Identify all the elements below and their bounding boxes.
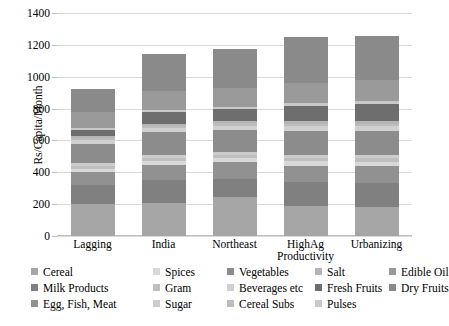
- bar-segment-sugar[interactable]: [355, 155, 399, 158]
- bar-segment-salt[interactable]: [142, 124, 186, 126]
- bar-segment-milk-products[interactable]: [71, 185, 115, 204]
- legend-item-milk-products[interactable]: Milk Products: [31, 280, 116, 295]
- legend-item-dry-fruits[interactable]: Dry Fruits: [389, 280, 449, 295]
- bar-segment-pulses[interactable]: [213, 107, 257, 110]
- bar-highag-productivity[interactable]: [284, 37, 328, 236]
- bar-segment-gram[interactable]: [284, 158, 328, 162]
- bar-urbanizing[interactable]: [355, 36, 399, 236]
- legend-item-salt[interactable]: Salt: [315, 264, 382, 279]
- y-tick-label: 1400: [27, 8, 50, 19]
- legend-item-spices[interactable]: Spices: [153, 264, 195, 279]
- legend-item-beverages-etc[interactable]: Beverages etc: [227, 280, 303, 295]
- bar-segment-dry-fruits[interactable]: [355, 36, 399, 80]
- legend-swatch-icon: [153, 284, 160, 291]
- legend-item-gram[interactable]: Gram: [153, 280, 195, 295]
- bar-segment-egg-fish-meat[interactable]: [213, 162, 257, 179]
- bar-segment-cereal[interactable]: [142, 203, 186, 236]
- bar-segment-pulses[interactable]: [142, 110, 186, 113]
- bar-segment-cereal-subs[interactable]: [71, 138, 115, 140]
- bar-segment-spices[interactable]: [355, 162, 399, 166]
- bar-segment-cereal[interactable]: [355, 207, 399, 236]
- bar-segment-cereal-subs[interactable]: [284, 124, 328, 127]
- bar-segment-gram[interactable]: [71, 166, 115, 169]
- bar-segment-egg-fish-meat[interactable]: [355, 166, 399, 183]
- bar-segment-sugar[interactable]: [71, 163, 115, 166]
- bar-segment-cereal[interactable]: [284, 206, 328, 236]
- bar-segment-beverages-etc[interactable]: [142, 128, 186, 132]
- bar-segment-dry-fruits[interactable]: [71, 89, 115, 111]
- bar-segment-salt[interactable]: [284, 121, 328, 123]
- bar-segment-milk-products[interactable]: [142, 180, 186, 203]
- bar-segment-salt[interactable]: [71, 136, 115, 138]
- bar-segment-beverages-etc[interactable]: [355, 126, 399, 131]
- legend-column: SaltFresh FruitsPulses: [315, 264, 382, 312]
- bar-segment-egg-fish-meat[interactable]: [142, 165, 186, 180]
- legend-swatch-icon: [227, 284, 234, 291]
- bar-segment-milk-products[interactable]: [355, 183, 399, 207]
- bar-segment-cereal-subs[interactable]: [142, 126, 186, 129]
- bar-segment-spices[interactable]: [213, 158, 257, 162]
- bar-segment-fresh-fruits[interactable]: [213, 109, 257, 121]
- legend-item-fresh-fruits[interactable]: Fresh Fruits: [315, 280, 382, 295]
- bar-segment-milk-products[interactable]: [213, 179, 257, 197]
- bar-lagging[interactable]: [71, 89, 115, 236]
- bar-segment-salt[interactable]: [355, 121, 399, 123]
- bar-segment-egg-fish-meat[interactable]: [284, 166, 328, 182]
- bar-segment-edible-oil[interactable]: [213, 88, 257, 107]
- bar-segment-spices[interactable]: [284, 161, 328, 166]
- bar-segment-edible-oil[interactable]: [71, 112, 115, 128]
- bar-segment-sugar[interactable]: [213, 152, 257, 155]
- bar-india[interactable]: [142, 58, 186, 236]
- chart-legend: CerealMilk ProductsEgg, Fish, MeatSpices…: [31, 264, 411, 312]
- bar-segment-vegetables[interactable]: [71, 144, 115, 163]
- bar-segment-beverages-etc[interactable]: [213, 126, 257, 130]
- bar-segment-milk-products[interactable]: [284, 182, 328, 206]
- bar-segment-pulses[interactable]: [71, 128, 115, 130]
- legend-item-sugar[interactable]: Sugar: [153, 296, 195, 311]
- bar-segment-vegetables[interactable]: [355, 131, 399, 155]
- bar-segment-edible-oil[interactable]: [142, 91, 186, 110]
- bar-segment-spices[interactable]: [142, 161, 186, 165]
- bar-segment-spices[interactable]: [71, 169, 115, 173]
- bar-segment-fresh-fruits[interactable]: [71, 130, 115, 136]
- bar-segment-sugar[interactable]: [284, 155, 328, 158]
- bar-segment-fresh-fruits[interactable]: [142, 112, 186, 123]
- legend-swatch-icon: [31, 284, 38, 291]
- bar-segment-cereal[interactable]: [213, 197, 257, 236]
- gridline: [57, 236, 412, 237]
- bar-segment-gram[interactable]: [142, 158, 186, 161]
- legend-item-egg-fish-meat[interactable]: Egg, Fish, Meat: [31, 296, 116, 311]
- bar-segment-salt[interactable]: [213, 121, 257, 123]
- bar-segment-vegetables[interactable]: [284, 131, 328, 155]
- bar-segment-gram[interactable]: [355, 158, 399, 162]
- bar-segment-cereal[interactable]: [71, 204, 115, 236]
- bar-segment-beverages-etc[interactable]: [284, 126, 328, 131]
- bar-segment-cereal-subs[interactable]: [213, 123, 257, 126]
- bar-segment-vegetables[interactable]: [213, 130, 257, 152]
- y-tick-label: 600: [33, 135, 50, 146]
- bar-segment-pulses[interactable]: [284, 103, 328, 106]
- legend-item-vegetables[interactable]: Vegetables: [227, 264, 303, 279]
- legend-item-cereal[interactable]: Cereal: [31, 264, 116, 279]
- bar-segment-beverages-etc[interactable]: [71, 140, 115, 144]
- bar-segment-fresh-fruits[interactable]: [355, 104, 399, 122]
- bar-segment-dry-fruits[interactable]: [213, 49, 257, 88]
- bar-segment-fresh-fruits[interactable]: [284, 106, 328, 121]
- bar-segment-edible-oil[interactable]: [284, 83, 328, 104]
- bar-segment-sugar[interactable]: [142, 155, 186, 158]
- bar-segment-dry-fruits[interactable]: [284, 37, 328, 83]
- legend-item-edible-oil[interactable]: Edible Oil: [389, 264, 449, 279]
- bar-northeast[interactable]: [213, 49, 257, 236]
- legend-item-cereal-subs[interactable]: Cereal Subs: [227, 296, 303, 311]
- bar-segment-vegetables[interactable]: [142, 132, 186, 154]
- bar-segment-dry-fruits[interactable]: [142, 54, 186, 90]
- legend-label: Fresh Fruits: [327, 282, 382, 294]
- bar-segment-egg-fish-meat[interactable]: [71, 172, 115, 185]
- legend-label: Spices: [165, 266, 195, 278]
- bar-segment-pulses[interactable]: [355, 101, 399, 104]
- bar-segment-cereal-subs[interactable]: [355, 124, 399, 127]
- legend-item-pulses[interactable]: Pulses: [315, 296, 382, 311]
- bar-segment-gram[interactable]: [213, 155, 257, 158]
- bar-segment-edible-oil[interactable]: [355, 80, 399, 101]
- legend-label: Dry Fruits: [401, 282, 449, 294]
